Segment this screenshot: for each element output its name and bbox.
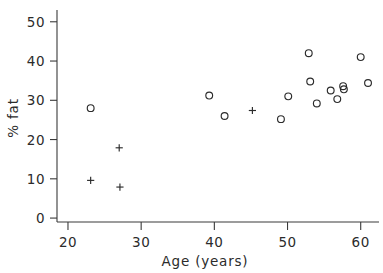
x-axis: 2030405060 [57, 222, 379, 250]
data-point-circle [327, 87, 334, 94]
data-point-markers [87, 50, 371, 191]
x-tick-label: 20 [59, 234, 77, 250]
y-tick-label: 50 [27, 14, 45, 30]
data-point-circle [221, 113, 228, 120]
scatter-plot-figure: 01020304050 2030405060 Age (years) % fat [0, 0, 383, 273]
y-tick-label: 30 [27, 92, 45, 108]
y-axis-tick-labels: 01020304050 [27, 14, 45, 226]
y-axis: 01020304050 [27, 10, 57, 226]
x-axis-tick-labels: 2030405060 [59, 234, 370, 250]
x-axis-ticks [68, 222, 361, 230]
y-tick-label: 0 [36, 210, 45, 226]
y-tick-label: 20 [27, 132, 45, 148]
plot-canvas: 01020304050 2030405060 Age (years) % fat [0, 0, 383, 273]
data-point-circle [87, 105, 94, 112]
x-tick-label: 50 [278, 234, 296, 250]
x-tick-label: 30 [132, 234, 150, 250]
y-axis-title: % fat [5, 98, 21, 137]
y-axis-ticks [50, 22, 57, 218]
data-point-circle [307, 78, 314, 85]
x-tick-label: 40 [205, 234, 223, 250]
data-point-circle [305, 50, 312, 57]
y-tick-label: 10 [27, 171, 45, 187]
x-axis-title: Age (years) [162, 253, 249, 269]
y-tick-label: 40 [27, 53, 45, 69]
data-point-circle [365, 80, 372, 87]
data-point-circle [278, 116, 285, 123]
data-point-circle [357, 54, 364, 61]
x-tick-label: 60 [352, 234, 370, 250]
data-point-circle [285, 93, 292, 100]
data-point-circle [334, 96, 341, 103]
data-point-circle [206, 92, 213, 99]
data-point-circle [313, 100, 320, 107]
